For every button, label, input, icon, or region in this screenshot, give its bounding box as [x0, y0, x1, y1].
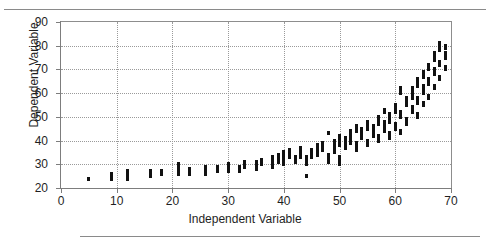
x-tick-label: 20 — [157, 195, 187, 207]
x-tick-label: 70 — [436, 195, 466, 207]
data-point — [427, 63, 430, 67]
data-point — [388, 131, 391, 135]
data-point — [422, 101, 425, 105]
x-tick-label: 10 — [102, 195, 132, 207]
x-axis-tick — [395, 188, 396, 193]
data-point — [433, 67, 436, 71]
data-point — [394, 103, 397, 107]
data-point — [316, 143, 319, 147]
figure-bottom-rule — [80, 236, 480, 237]
data-point — [422, 84, 425, 88]
data-point — [282, 150, 285, 154]
y-axis-tick — [56, 22, 61, 23]
scatter-plot-figure: 2030405060708090 010203040506070 Depende… — [0, 0, 490, 246]
y-axis-tick — [56, 69, 61, 70]
data-point — [411, 86, 414, 90]
data-point — [360, 127, 363, 131]
data-point — [377, 134, 380, 138]
gridline-horizontal — [61, 93, 451, 94]
data-point — [277, 153, 280, 157]
data-point — [444, 44, 447, 48]
data-point — [399, 86, 402, 90]
data-point — [383, 120, 386, 124]
x-axis-tick — [228, 188, 229, 193]
data-point — [416, 112, 419, 116]
x-axis-tick — [451, 188, 452, 193]
data-point — [355, 124, 358, 128]
data-point — [327, 153, 330, 157]
data-point — [338, 155, 341, 159]
x-tick-label: 40 — [269, 195, 299, 207]
data-point — [399, 129, 402, 133]
data-point — [444, 65, 447, 69]
data-point — [238, 165, 241, 169]
x-tick-label: 60 — [380, 195, 410, 207]
data-point — [433, 51, 436, 55]
y-axis-tick — [56, 164, 61, 165]
y-axis-tick — [56, 93, 61, 94]
plot-area — [61, 22, 451, 188]
x-axis-tick — [117, 188, 118, 193]
data-point — [243, 160, 246, 164]
data-point — [338, 134, 341, 138]
data-point — [299, 146, 302, 150]
data-point — [405, 117, 408, 121]
data-point — [327, 131, 330, 135]
y-axis-tick — [56, 117, 61, 118]
data-point — [349, 129, 352, 133]
data-point — [383, 108, 386, 112]
data-point — [438, 60, 441, 64]
gridline-horizontal — [61, 117, 451, 118]
data-point — [271, 155, 274, 159]
data-point — [310, 148, 313, 152]
y-axis-tick — [56, 141, 61, 142]
data-point — [160, 169, 163, 173]
data-point — [438, 75, 441, 79]
data-point — [177, 162, 180, 166]
data-point — [321, 141, 324, 145]
data-point — [87, 177, 90, 181]
data-point — [355, 141, 358, 145]
data-point — [388, 112, 391, 116]
data-point — [260, 158, 263, 162]
data-point — [255, 160, 258, 164]
data-point — [444, 51, 447, 55]
data-point — [422, 70, 425, 74]
gridline-horizontal — [61, 69, 451, 70]
data-point — [333, 139, 336, 143]
x-axis-tick — [284, 188, 285, 193]
gridline-vertical — [172, 22, 173, 188]
data-point — [427, 77, 430, 81]
data-point — [216, 165, 219, 169]
gridline-vertical — [117, 22, 118, 188]
data-point — [188, 167, 191, 171]
data-point — [288, 148, 291, 152]
data-point — [405, 96, 408, 100]
x-tick-label: 30 — [213, 195, 243, 207]
data-point — [110, 172, 113, 176]
data-point — [416, 77, 419, 81]
data-point — [372, 124, 375, 128]
data-point — [305, 174, 308, 178]
data-point — [149, 169, 152, 173]
x-tick-label: 50 — [325, 195, 355, 207]
figure-top-rule — [4, 9, 486, 10]
data-point — [416, 96, 419, 100]
y-axis-title-container: Dependent Variable — [14, 22, 30, 188]
data-point — [399, 110, 402, 114]
data-point — [227, 162, 230, 166]
data-point — [204, 165, 207, 169]
data-point — [294, 155, 297, 159]
data-point — [411, 105, 414, 109]
data-point — [366, 120, 369, 124]
gridline-horizontal — [61, 46, 451, 47]
data-point — [305, 155, 308, 159]
x-axis-tick — [172, 188, 173, 193]
x-axis-tick — [340, 188, 341, 193]
y-axis-title: Dependent Variable — [27, 0, 41, 155]
x-axis-tick — [61, 188, 62, 193]
data-point — [377, 115, 380, 119]
data-point — [433, 84, 436, 88]
gridline-horizontal — [61, 141, 451, 142]
data-point — [427, 94, 430, 98]
